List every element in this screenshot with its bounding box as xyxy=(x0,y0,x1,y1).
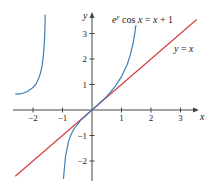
curve-equation-label: ey cos x = x + 1 xyxy=(112,13,173,25)
y-tick-label: 3 xyxy=(83,29,88,39)
implicit-curve-branch xyxy=(64,25,137,179)
y-axis-arrow-icon xyxy=(90,12,95,18)
x-axis-arrow-icon xyxy=(193,108,199,113)
line-equation-label: y = x xyxy=(173,43,194,54)
x-tick-label: −1 xyxy=(58,113,68,123)
implicit-curve-branch xyxy=(15,14,45,94)
x-tick-label: 1 xyxy=(119,113,124,123)
x-tick-label: −2 xyxy=(28,113,38,123)
line-y-equals-x xyxy=(15,20,196,177)
series-layer xyxy=(15,14,196,179)
y-tick-label: −2 xyxy=(77,156,87,166)
y-tick-label: 2 xyxy=(83,54,88,64)
x-tick-label: 2 xyxy=(149,113,154,123)
x-axis-label: x xyxy=(199,111,205,122)
x-tick-label: 3 xyxy=(178,113,183,123)
y-axis-label: y xyxy=(82,10,88,21)
y-tick-label: −1 xyxy=(77,131,87,141)
implicit-curve-chart: −2−1123−2−1123 y x ey cos x = x + 1 y = … xyxy=(0,0,209,190)
y-tick-label: 1 xyxy=(83,80,88,90)
